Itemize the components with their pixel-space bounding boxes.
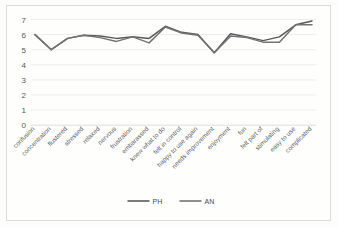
y-tick-label: 1: [22, 106, 27, 115]
data-series-group: [35, 21, 312, 53]
y-tick-label: 4: [22, 61, 27, 70]
chart-screenshot: 7 6 5 4 3 2 1 0 confusionconcentrationfl…: [0, 0, 338, 228]
line-chart: 7 6 5 4 3 2 1 0 confusionconcentrationfl…: [0, 0, 338, 228]
y-tick-label: 2: [22, 91, 27, 100]
y-tick-label: 3: [22, 76, 27, 85]
chart-legend: PHAN: [128, 198, 215, 205]
legend-label-ph: PH: [153, 198, 163, 205]
gridlines: [31, 20, 316, 126]
y-tick-label: 5: [22, 46, 27, 55]
x-tick-label: fun: [236, 125, 248, 137]
x-axis-labels: confusionconcentrationflusteredstressedr…: [11, 125, 313, 171]
y-tick-label: 7: [22, 16, 27, 25]
legend-label-an: AN: [205, 198, 215, 205]
y-tick-label: 6: [22, 31, 27, 40]
y-axis-ticks: 7 6 5 4 3 2 1 0: [22, 16, 27, 131]
